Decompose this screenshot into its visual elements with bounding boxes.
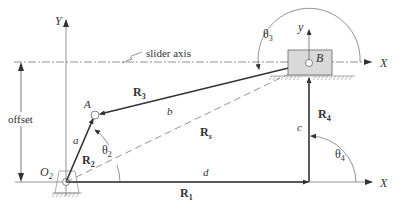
pin-b bbox=[306, 60, 313, 67]
slider-axis-label: slider axis bbox=[146, 47, 191, 59]
x-axis-bottom-label: X bbox=[379, 176, 388, 190]
origin-label: O2 bbox=[40, 165, 53, 181]
point-a-label: A bbox=[83, 98, 91, 110]
link-d-label: d bbox=[203, 166, 209, 178]
vector-rs-label: Rs bbox=[200, 125, 212, 141]
theta3-label: θ3 bbox=[263, 27, 273, 43]
ground-pivot-o2 bbox=[52, 171, 82, 197]
link-c-label: c bbox=[297, 121, 302, 133]
local-y-label: y bbox=[297, 20, 304, 34]
theta2-label: θ2 bbox=[102, 143, 112, 159]
vector-r4-label: R4 bbox=[318, 107, 331, 123]
theta2-arc-a bbox=[117, 165, 120, 182]
linkage-diagram: Y X X slider axis offset O2 d R1 A a R2 … bbox=[0, 0, 399, 210]
theta4-arc bbox=[311, 136, 356, 182]
offset-label: offset bbox=[8, 113, 33, 125]
x-axis-top-label: X bbox=[379, 56, 388, 70]
vector-r3 bbox=[100, 63, 309, 114]
vector-r2-label: R2 bbox=[82, 153, 95, 169]
offset-arrow-down bbox=[18, 173, 24, 182]
vector-r1-label: R1 bbox=[180, 186, 193, 202]
x-axis-top-arrow bbox=[364, 59, 372, 65]
pin-a bbox=[91, 111, 99, 119]
vector-rs bbox=[66, 66, 305, 182]
y-axis-label: Y bbox=[55, 14, 63, 28]
link-b-label: b bbox=[167, 105, 173, 117]
offset-arrow-up bbox=[18, 62, 24, 71]
link-a-label: a bbox=[73, 134, 79, 146]
slider-axis-leader bbox=[122, 52, 142, 63]
slider-ground bbox=[269, 76, 355, 80]
vector-r2 bbox=[66, 119, 93, 182]
theta4-label: θ4 bbox=[335, 147, 345, 163]
vector-r3-label: R3 bbox=[133, 85, 146, 101]
point-b-label: B bbox=[316, 51, 324, 65]
